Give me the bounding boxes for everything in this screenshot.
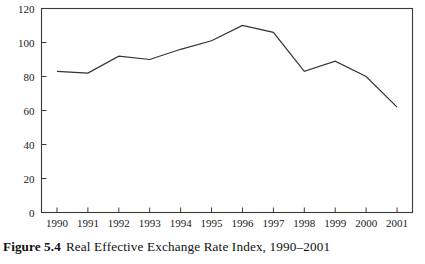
plot-frame [42, 9, 413, 213]
y-axis-tick-label: 80 [24, 71, 36, 83]
figure-caption-label: Figure 5.4 [3, 239, 61, 254]
x-axis-tick-label: 2001 [386, 217, 408, 229]
y-axis-tick-label: 120 [18, 3, 35, 15]
x-axis-tick-label: 1993 [139, 217, 162, 229]
chart-area: 020406080100120 199019911992199319941995… [0, 0, 425, 234]
x-axis-tick-label: 1999 [324, 217, 347, 229]
y-axis-tick-label: 60 [24, 105, 36, 117]
x-axis-tick-label: 1997 [262, 217, 285, 229]
x-axis-tick-label: 1995 [201, 217, 224, 229]
y-axis-tick-label: 100 [18, 37, 35, 49]
x-axis-tick-label: 1992 [108, 217, 130, 229]
x-axis-tick-label: 1996 [231, 217, 254, 229]
figure-caption-text: Real Effective Exchange Rate Index, 1990… [66, 239, 330, 254]
x-axis-tick-label: 1998 [293, 217, 316, 229]
y-axis-tick-label: 20 [24, 173, 36, 185]
line-chart: 020406080100120 199019911992199319941995… [0, 0, 425, 234]
y-axis-tick-label: 40 [24, 139, 36, 151]
y-axis-tick-label: 0 [29, 207, 35, 219]
figure-container: 020406080100120 199019911992199319941995… [0, 0, 425, 264]
x-axis-tick-label: 2000 [355, 217, 378, 229]
x-axis-tick-label: 1994 [170, 217, 193, 229]
figure-caption: Figure 5.4Real Effective Exchange Rate I… [3, 239, 421, 255]
x-axis-tick-label: 1991 [77, 217, 99, 229]
x-axis-tick-label: 1990 [46, 217, 69, 229]
